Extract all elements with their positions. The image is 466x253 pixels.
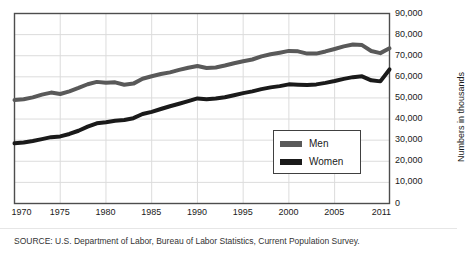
legend-item-women: Women — [280, 155, 343, 169]
legend-swatch-women — [280, 159, 302, 165]
y-axis-title: Numbers in thousands — [456, 62, 466, 172]
plot-area: 010,00020,00030,00040,00050,00060,00070,… — [0, 0, 457, 225]
y-tick-label: 90,000 — [395, 9, 423, 18]
x-tick-label: 2005 — [324, 208, 344, 217]
x-tick-label: 2000 — [278, 208, 298, 217]
x-tick-label: 1995 — [233, 208, 253, 217]
vertical-gridlines — [60, 14, 334, 204]
data-series-lines — [15, 44, 390, 143]
x-tick-label: 1975 — [50, 208, 70, 217]
y-tick-label: 30,000 — [395, 135, 423, 144]
x-tick-label: 1985 — [141, 208, 161, 217]
y-tick-label: 0 — [395, 199, 400, 208]
source-divider — [0, 228, 457, 229]
x-tick-label: 1970 — [12, 208, 32, 217]
y-tick-label: 60,000 — [395, 72, 423, 81]
source-note: SOURCE: U.S. Department of Labor, Bureau… — [14, 236, 360, 246]
y-tick-label: 50,000 — [395, 93, 423, 102]
y-tick-label: 70,000 — [395, 51, 423, 60]
y-tick-label: 80,000 — [395, 30, 423, 39]
series-line-men — [15, 44, 390, 100]
x-tick-label: 1990 — [187, 208, 207, 217]
y-tick-label: 20,000 — [395, 156, 423, 165]
chart-legend: Men Women — [273, 130, 361, 174]
plot-frame-border — [15, 14, 390, 204]
legend-swatch-men — [280, 141, 302, 147]
y-axis-title-text: Numbers in thousands — [456, 62, 466, 172]
y-tick-label: 10,000 — [395, 177, 423, 186]
y-tick-label: 40,000 — [395, 114, 423, 123]
legend-item-men: Men — [280, 137, 328, 151]
x-tick-label: 1980 — [96, 208, 116, 217]
legend-label-men: Men — [309, 139, 328, 149]
x-tick-label: 2011 — [372, 208, 391, 217]
line-chart-svg — [0, 0, 457, 225]
legend-label-women: Women — [309, 157, 343, 167]
